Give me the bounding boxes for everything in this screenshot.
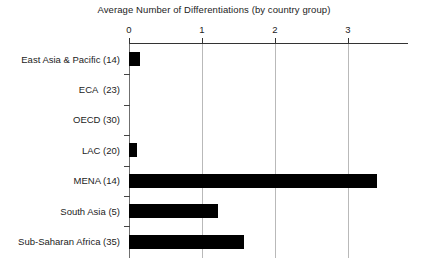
x-tick-label-0: 0 [114,24,144,35]
category-label: MENA (14) [0,175,120,186]
category-row: OECD (30) [0,105,428,135]
category-label: South Asia (5) [0,206,120,217]
y-tick [124,74,130,75]
category-row: ECA (23) [0,74,428,104]
category-label: Sub-Saharan Africa (35) [0,236,120,247]
y-tick [124,226,130,227]
y-tick [124,105,130,106]
bar [129,143,137,157]
category-row: South Asia (5) [0,196,428,226]
x-tick-label-1: 1 [187,24,217,35]
x-tick-label-2: 2 [260,24,290,35]
y-tick [124,135,130,136]
bar [129,52,140,66]
category-row: MENA (14) [0,166,428,196]
y-tick [124,196,130,197]
category-label: ECA (23) [0,84,120,95]
bar [129,204,218,218]
bar [129,235,244,249]
x-tick-label-3: 3 [333,24,363,35]
chart-title: Average Number of Differentiations (by c… [0,4,428,16]
bar [129,174,377,188]
category-row: LAC (20) [0,135,428,165]
bar-chart-figure: Average Number of Differentiations (by c… [0,0,428,265]
category-label: East Asia & Pacific (14) [0,54,120,65]
category-row: East Asia & Pacific (14) [0,44,428,74]
category-row: Sub-Saharan Africa (35) [0,226,428,256]
y-tick [124,166,130,167]
category-label: LAC (20) [0,145,120,156]
category-label: OECD (30) [0,114,120,125]
